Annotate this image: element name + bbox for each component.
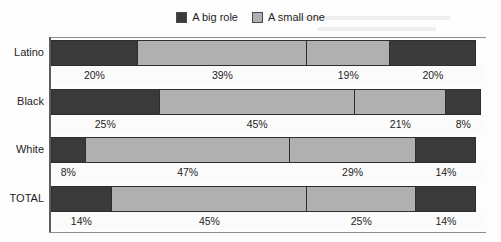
bar-segment-small (307, 186, 416, 212)
value-label-band: 20%39%19%20% (51, 66, 485, 83)
bar-segment-big (416, 186, 477, 212)
segment-value-label: 25% (51, 115, 160, 132)
segment-value-label: 20% (51, 66, 138, 83)
bar-segment-big (51, 40, 138, 66)
legend-item-small-one: A small one (252, 11, 325, 23)
segment-value-label: 14% (51, 212, 112, 229)
bar-segment-big (51, 137, 86, 163)
bar-segment-small (355, 89, 446, 115)
bar-segment-big (416, 137, 477, 163)
segment-value-label: 47% (86, 163, 290, 180)
bar-segment-big (51, 186, 112, 212)
category-label-black: Black (0, 95, 44, 107)
category-label-total: TOTAL (0, 192, 44, 204)
segment-value-label: 14% (416, 163, 477, 180)
category-label-white: White (0, 143, 44, 155)
segment-value-label: 14% (416, 212, 477, 229)
segment-value-label: 8% (51, 163, 86, 180)
segment-value-label: 39% (138, 66, 307, 83)
value-label-band: 8%47%29%14% (51, 163, 485, 180)
bar-segment-big (51, 89, 160, 115)
segment-value-label: 25% (307, 212, 416, 229)
plot-bottom-rule (49, 232, 486, 233)
legend-item-big-role: A big role (176, 11, 238, 23)
bar-segment-small (307, 40, 389, 66)
stacked-bar-chart: A big role A small one Latino20%39%19%20… (0, 0, 501, 242)
stacked-bar (51, 89, 485, 115)
stacked-bar (51, 40, 485, 66)
bar-segment-big (446, 89, 481, 115)
legend-label-big-role: A big role (192, 11, 238, 23)
stacked-bar (51, 137, 485, 163)
legend-swatch-light-icon (252, 12, 263, 23)
value-label-band: 25%45%21%8% (51, 115, 485, 132)
segment-value-label: 19% (307, 66, 389, 83)
value-label-band: 14%45%25%14% (51, 212, 485, 229)
legend-swatch-dark-icon (176, 12, 187, 23)
bar-segment-small (112, 186, 307, 212)
bar-segment-small (138, 40, 307, 66)
bar-segment-small (160, 89, 355, 115)
segment-value-label: 21% (355, 115, 446, 132)
segment-value-label: 45% (112, 212, 307, 229)
bar-segment-small (86, 137, 290, 163)
chart-legend: A big role A small one (0, 11, 501, 23)
segment-value-label: 8% (446, 115, 481, 132)
bar-segment-small (290, 137, 416, 163)
segment-value-label: 29% (290, 163, 416, 180)
category-label-latino: Latino (0, 46, 44, 58)
legend-label-small-one: A small one (268, 11, 325, 23)
segment-value-label: 20% (390, 66, 477, 83)
segment-value-label: 45% (160, 115, 355, 132)
stacked-bar (51, 186, 485, 212)
bar-segment-big (390, 40, 477, 66)
